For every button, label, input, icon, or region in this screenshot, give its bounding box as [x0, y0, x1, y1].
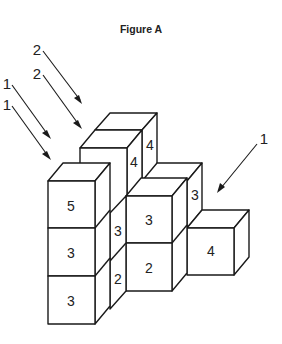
right-front-label: 4: [207, 243, 215, 259]
middle-side-upper-label: 3: [191, 187, 199, 203]
arrow-label: 1: [260, 130, 268, 147]
figure-a-diagram: Figure A 4 4 3 4 3 2: [0, 0, 282, 344]
middle-front-upper-label: 3: [145, 212, 153, 228]
gap-side-upper-label: 3: [114, 223, 122, 239]
figure-title: Figure A: [120, 23, 163, 35]
middle-column: 3 2: [126, 178, 187, 291]
arrow-label: 1: [3, 96, 11, 113]
arrowhead-icon: [42, 130, 51, 139]
arrow-label: 2: [33, 41, 41, 58]
arrowhead-icon: [73, 120, 82, 129]
back-tower-side-front-label: 4: [130, 154, 138, 170]
arrow-label: 2: [33, 65, 41, 82]
arrow-label: 1: [3, 75, 11, 92]
middle-front-lower-label: 2: [145, 260, 153, 276]
gap-side-lower-label: 2: [114, 271, 122, 287]
left-tower: 5 3 3: [48, 163, 110, 324]
arrowhead-icon: [42, 151, 51, 160]
left-tower-top-label: 5: [67, 198, 75, 214]
right-cube: 4: [187, 210, 249, 275]
back-tower-side-back-label: 4: [146, 137, 154, 153]
arrowhead-icon: [74, 95, 82, 104]
arrow-right: 1: [217, 130, 268, 193]
gap-column: 3 2: [110, 196, 126, 309]
left-tower-bottom-label: 3: [67, 293, 75, 309]
arrow-left-second: 2: [33, 65, 82, 129]
left-tower-mid-label: 3: [67, 245, 75, 261]
